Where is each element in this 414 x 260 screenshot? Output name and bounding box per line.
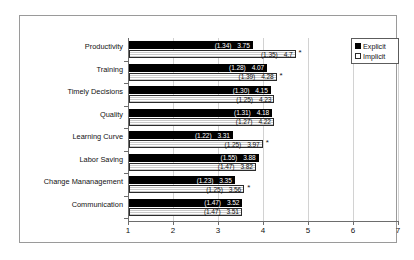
significance-marker: *	[280, 72, 283, 80]
x-axis-tick-label: 6	[343, 226, 363, 236]
chart-row: Productivity(1.34)3.75(1.35)4.7*	[20, 38, 398, 61]
category-label: Timely Decisions	[20, 87, 123, 96]
x-axis-tick-label: 1	[118, 226, 138, 236]
y-axis-tick	[124, 218, 129, 219]
bar-implicit: (1.27)4.22	[129, 118, 274, 126]
bar-implicit: (1.25)3.56	[129, 185, 244, 193]
x-axis-tick	[398, 221, 399, 225]
bar-explicit: (1.47)3.52	[129, 199, 242, 207]
x-axis-tick	[173, 221, 174, 225]
x-axis-tick-label: 3	[208, 226, 228, 236]
legend-item-implicit[interactable]: Implicit	[355, 51, 396, 61]
bar-value-label: (1.25)4.23	[236, 96, 273, 103]
bar-value-label: (1.47)3.52	[204, 199, 241, 206]
hollow-square-icon	[355, 53, 361, 59]
bar-value-label: (1.25)3.56	[206, 186, 243, 193]
bar-implicit: (1.47)3.51	[129, 208, 242, 216]
bar-explicit: (1.23)3.35	[129, 176, 235, 184]
legend-label-explicit: Explicit	[363, 42, 386, 51]
chart-row: Quality(1.31)4.18(1.27)4.22	[20, 106, 398, 129]
chart-row: Labor Saving(1.55)3.88(1.47)3.82	[20, 151, 398, 174]
bar-value-label: (1.55)3.88	[221, 154, 258, 161]
significance-marker: *	[299, 49, 302, 57]
x-axis-tick	[308, 221, 309, 225]
chart-row: Learning Curve(1.22)3.31(1.25)3.97*	[20, 128, 398, 151]
bar-value-label: (1.47)3.82	[218, 163, 255, 170]
chart-legend: Explicit Implicit	[351, 38, 399, 64]
bar-explicit: (1.22)3.31	[129, 131, 233, 139]
bar-explicit: (1.55)3.88	[129, 154, 259, 162]
category-label: Learning Curve	[20, 132, 123, 141]
bar-explicit: (1.28)4.07	[129, 64, 267, 72]
bar-value-label: (1.30)4.15	[233, 87, 270, 94]
x-axis-tick	[353, 221, 354, 225]
category-label: Labor Saving	[20, 155, 123, 164]
bar-value-label: (1.23)3.35	[197, 177, 234, 184]
category-label: Quality	[20, 110, 123, 119]
category-label: Productivity	[20, 42, 123, 51]
bar-explicit: (1.31)4.18	[129, 109, 272, 117]
significance-marker: *	[266, 139, 269, 147]
bar-value-label: (1.31)4.18	[234, 109, 271, 116]
bar-value-label: (1.27)4.22	[236, 118, 273, 125]
filled-square-icon	[355, 43, 361, 49]
bar-implicit: (1.25)3.97	[129, 140, 263, 148]
bar-value-label: (1.22)3.31	[195, 132, 232, 139]
bar-value-label: (1.35)4.7	[261, 51, 295, 58]
x-axis-tick-label: 5	[298, 226, 318, 236]
bar-value-label: (1.47)3.51	[204, 208, 241, 215]
x-axis-tick	[128, 221, 129, 225]
legend-item-explicit[interactable]: Explicit	[355, 41, 396, 51]
legend-label-implicit: Implicit	[363, 52, 385, 61]
bar-value-label: (1.34)3.75	[215, 42, 252, 49]
bar-implicit: (1.25)4.23	[129, 95, 274, 103]
bar-value-label: (1.28)4.07	[229, 64, 266, 71]
chart-row: Training(1.28)4.07(1.39)4.28*	[20, 61, 398, 84]
bar-implicit: (1.35)4.7	[129, 50, 296, 58]
bar-explicit: (1.30)4.15	[129, 86, 271, 94]
category-label: Communication	[20, 200, 123, 209]
gridline	[398, 38, 399, 221]
x-axis-tick-label: 4	[253, 226, 273, 236]
plot-frame: 1234567 Productivity(1.34)3.75(1.35)4.7*…	[19, 15, 397, 243]
chart-row: Timely Decisions(1.30)4.15(1.25)4.23	[20, 83, 398, 106]
x-axis-tick	[218, 221, 219, 225]
bar-explicit: (1.34)3.75	[129, 41, 253, 49]
category-label: Training	[20, 65, 123, 74]
bar-value-label: (1.39)4.28	[239, 73, 276, 80]
bar-value-label: (1.25)3.97	[225, 141, 262, 148]
category-label: Change Mananagement	[20, 177, 123, 186]
chart-row: Communication(1.47)3.52(1.47)3.51	[20, 196, 398, 219]
x-axis-tick	[263, 221, 264, 225]
bar-implicit: (1.47)3.82	[129, 163, 256, 171]
significance-marker: *	[247, 184, 250, 192]
x-axis-tick-label: 7	[388, 226, 408, 236]
horizontal-bar-chart: 1234567 Productivity(1.34)3.75(1.35)4.7*…	[0, 0, 414, 260]
bar-implicit: (1.39)4.28	[129, 73, 277, 81]
x-axis-tick-label: 2	[163, 226, 183, 236]
chart-row: Change Mananagement(1.23)3.35(1.25)3.56*	[20, 173, 398, 196]
